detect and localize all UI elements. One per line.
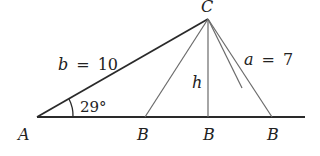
vertex-label-b-foot: B	[202, 125, 215, 144]
height-label: h	[192, 73, 202, 92]
vertex-label-c: C	[201, 0, 213, 16]
angle-label: 29°	[80, 98, 107, 116]
vertex-label-a: A	[16, 125, 30, 144]
vertex-label-b-left: B	[136, 125, 149, 144]
vertex-label-b-right: B	[266, 125, 279, 144]
triangle-diagram: C A B B B b = 10 a = 7 h 29°	[0, 0, 320, 156]
side-a-left-line	[145, 19, 208, 117]
side-a-swing-line	[208, 19, 242, 88]
side-a-label: a = 7	[244, 50, 293, 69]
side-b-label: b = 10	[58, 55, 118, 74]
angle-arc	[69, 99, 73, 117]
